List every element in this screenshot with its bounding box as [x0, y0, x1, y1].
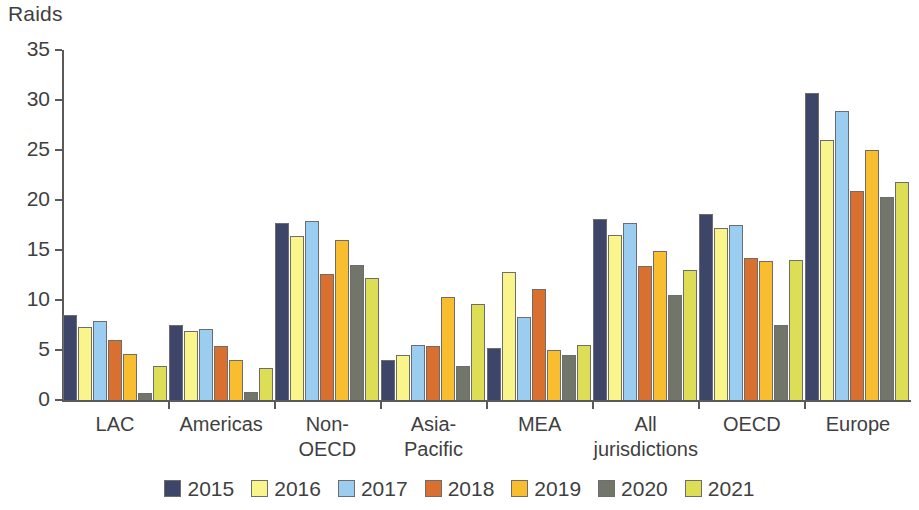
bar-2018[interactable] [108, 340, 122, 400]
bar-2015[interactable] [699, 214, 713, 400]
bar-2016[interactable] [502, 272, 516, 400]
bar-2021[interactable] [895, 182, 909, 400]
bar-2016[interactable] [396, 355, 410, 400]
bar-2020[interactable] [774, 325, 788, 400]
legend-item-2020[interactable]: 2020 [598, 478, 668, 499]
y-axis-tick-label: 0 [38, 386, 50, 412]
bar-2021[interactable] [789, 260, 803, 400]
bar-2020[interactable] [562, 355, 576, 400]
bar-2021[interactable] [365, 278, 379, 400]
bar-2020[interactable] [350, 265, 364, 400]
bar-chart: Raids 05101520253035 LACAmericasNon- OEC… [0, 0, 919, 510]
bar-2021[interactable] [259, 368, 273, 400]
legend-item-2018[interactable]: 2018 [425, 478, 495, 499]
y-axis-tick-mark [55, 149, 62, 151]
bar-2018[interactable] [638, 266, 652, 400]
bar-2018[interactable] [214, 346, 228, 400]
bar-2020[interactable] [668, 295, 682, 400]
bar-2017[interactable] [517, 317, 531, 400]
bar-2017[interactable] [199, 329, 213, 400]
x-axis-category-labels: LACAmericasNon- OECDAsia- PacificMEAAll … [62, 412, 911, 462]
bar-2019[interactable] [335, 240, 349, 400]
y-axis-tick-label: 35 [27, 36, 50, 62]
legend-swatch-2018 [425, 480, 442, 497]
x-axis-group-separator [804, 400, 806, 409]
bar-2017[interactable] [305, 221, 319, 400]
bar-2020[interactable] [138, 393, 152, 400]
x-axis-group-separator [698, 400, 700, 409]
bar-2019[interactable] [653, 251, 667, 400]
bar-2021[interactable] [577, 345, 591, 400]
bar-2020[interactable] [244, 392, 258, 400]
legend-item-2016[interactable]: 2016 [251, 478, 321, 499]
x-axis-category-label: OECD [699, 412, 805, 462]
x-axis-group-separator [274, 400, 276, 409]
bar-2019[interactable] [229, 360, 243, 400]
y-axis-tick-mark [55, 199, 62, 201]
y-axis-tick-mark [55, 49, 62, 51]
bar-2018[interactable] [744, 258, 758, 400]
x-axis-category-label: Europe [805, 412, 911, 462]
bar-2019[interactable] [123, 354, 137, 400]
y-axis-tick-mark [55, 99, 62, 101]
legend-label-2015: 2015 [187, 478, 234, 499]
legend-swatch-2021 [685, 480, 702, 497]
bar-2017[interactable] [623, 223, 637, 400]
bar-2015[interactable] [63, 315, 77, 400]
bar-2021[interactable] [471, 304, 485, 400]
legend-item-2021[interactable]: 2021 [685, 478, 755, 499]
bar-2015[interactable] [169, 325, 183, 400]
bar-2016[interactable] [714, 228, 728, 400]
x-axis-category-label: Asia- Pacific [380, 412, 486, 462]
x-axis-category-label: All jurisdictions [593, 412, 699, 462]
legend-item-2017[interactable]: 2017 [338, 478, 408, 499]
bar-group [698, 50, 804, 400]
bar-group [62, 50, 168, 400]
x-axis-category-label: Non- OECD [274, 412, 380, 462]
bar-2015[interactable] [805, 93, 819, 400]
bar-2016[interactable] [290, 236, 304, 400]
bar-2017[interactable] [93, 321, 107, 400]
plot-area: 05101520253035 [62, 50, 910, 400]
y-axis-tick-mark [55, 249, 62, 251]
legend-label-2018: 2018 [448, 478, 495, 499]
legend-item-2019[interactable]: 2019 [511, 478, 581, 499]
legend-label-2020: 2020 [621, 478, 668, 499]
bar-2019[interactable] [441, 297, 455, 400]
bar-2018[interactable] [426, 346, 440, 400]
bar-2018[interactable] [532, 289, 546, 400]
bar-2015[interactable] [487, 348, 501, 400]
bar-2019[interactable] [865, 150, 879, 400]
bar-2021[interactable] [683, 270, 697, 400]
legend-label-2019: 2019 [534, 478, 581, 499]
bar-group [274, 50, 380, 400]
bar-2019[interactable] [759, 261, 773, 400]
bar-2017[interactable] [411, 345, 425, 400]
bar-2021[interactable] [153, 366, 167, 400]
bar-2016[interactable] [820, 140, 834, 400]
chart-legend: 2015201620172018201920202021 [0, 478, 919, 499]
y-axis-tick-label: 15 [27, 236, 50, 262]
bar-2016[interactable] [184, 331, 198, 400]
legend-item-2015[interactable]: 2015 [164, 478, 234, 499]
y-axis-tick-label: 5 [38, 336, 50, 362]
bar-2018[interactable] [320, 274, 334, 400]
bar-group [592, 50, 698, 400]
bar-2016[interactable] [608, 235, 622, 400]
bar-2018[interactable] [850, 191, 864, 400]
bar-2015[interactable] [593, 219, 607, 400]
y-axis-tick-label: 30 [27, 86, 50, 112]
legend-swatch-2015 [164, 480, 181, 497]
bar-2016[interactable] [78, 327, 92, 400]
bar-group [804, 50, 910, 400]
y-axis-tick-mark [55, 349, 62, 351]
y-axis-tick-mark [55, 299, 62, 301]
bar-2019[interactable] [547, 350, 561, 400]
bar-2015[interactable] [275, 223, 289, 400]
bar-group [168, 50, 274, 400]
bar-2015[interactable] [381, 360, 395, 400]
bar-2017[interactable] [729, 225, 743, 400]
bar-2020[interactable] [456, 366, 470, 400]
bar-2020[interactable] [880, 197, 894, 400]
bar-2017[interactable] [835, 111, 849, 400]
